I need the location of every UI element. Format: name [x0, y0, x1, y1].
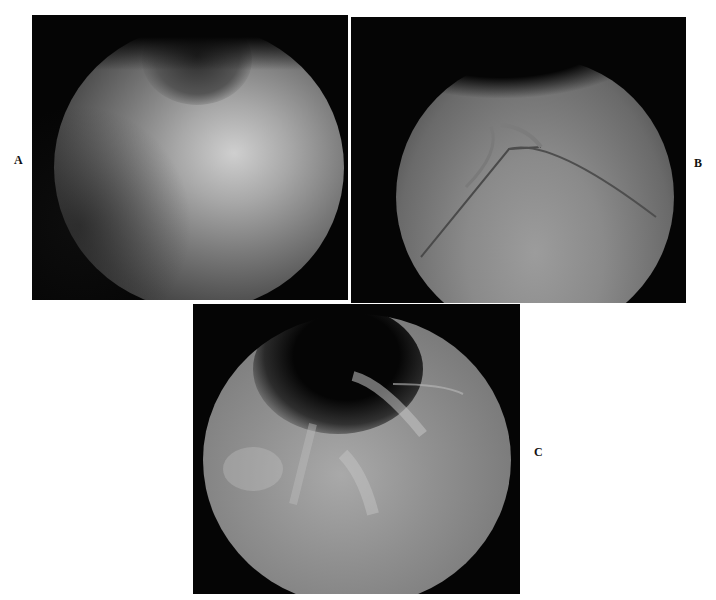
panel-label-b: B — [694, 156, 702, 171]
panel-b-image — [351, 17, 686, 303]
shadow-region — [32, 105, 192, 300]
membrane-lines — [351, 17, 686, 303]
panel-a-image — [32, 15, 348, 300]
panel-c-image — [193, 304, 520, 594]
tissue-strands — [193, 304, 520, 594]
panel-label-a: A — [14, 153, 23, 168]
dark-border — [32, 15, 348, 70]
panel-label-c: C — [534, 445, 543, 460]
